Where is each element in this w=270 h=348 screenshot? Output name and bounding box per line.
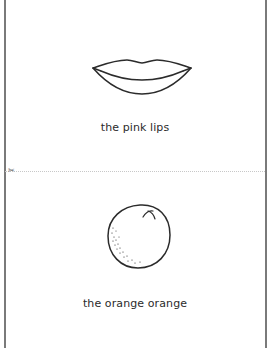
flashcard-sheet: the pink lips ✂ [0, 0, 270, 348]
flashcard-lips: the pink lips [5, 0, 265, 171]
flashcard-orange: the orange orange [5, 172, 265, 348]
caption-lips: the pink lips [5, 121, 265, 134]
orange-icon [100, 198, 180, 278]
card-border-right [265, 0, 267, 348]
caption-orange: the orange orange [5, 297, 265, 310]
lips-icon [87, 58, 197, 98]
